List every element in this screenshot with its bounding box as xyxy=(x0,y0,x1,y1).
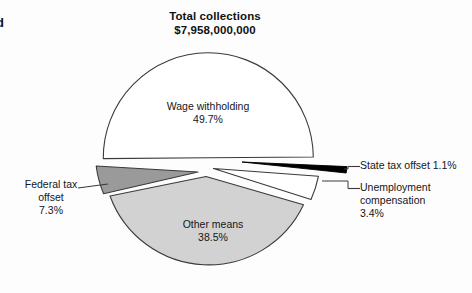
leader-line-unemployment-stem xyxy=(322,181,348,189)
pie-chart-figure: d Total collections $7,958,000,000 Wage … xyxy=(0,0,472,293)
slice-label-other-means: Other means 38.5% xyxy=(158,218,268,244)
slice-label-unemployment-percent: 3.4% xyxy=(360,207,472,220)
slice-label-wage-withholding-percent: 49.7% xyxy=(142,113,274,126)
slice-label-wage-withholding-name: Wage withholding xyxy=(142,100,274,113)
slice-label-federal-tax-offset-percent: 7.3% xyxy=(12,204,90,217)
slice-label-unemployment-compensation: Unemployment compensation 3.4% xyxy=(360,181,472,221)
slice-label-unemployment-line1: Unemployment xyxy=(360,181,472,194)
slice-label-other-means-percent: 38.5% xyxy=(158,231,268,244)
slice-label-federal-tax-offset-line1: Federal tax xyxy=(12,178,90,191)
pie-svg xyxy=(0,0,472,293)
slice-label-wage-withholding: Wage withholding 49.7% xyxy=(142,100,274,126)
slice-label-state-tax-offset: State tax offset 1.1% xyxy=(360,159,472,172)
slice-label-unemployment-line2: compensation xyxy=(360,194,472,207)
slice-label-other-means-name: Other means xyxy=(158,218,268,231)
slice-label-federal-tax-offset: Federal tax offset 7.3% xyxy=(12,178,90,217)
slice-label-federal-tax-offset-line2: offset xyxy=(12,191,90,204)
